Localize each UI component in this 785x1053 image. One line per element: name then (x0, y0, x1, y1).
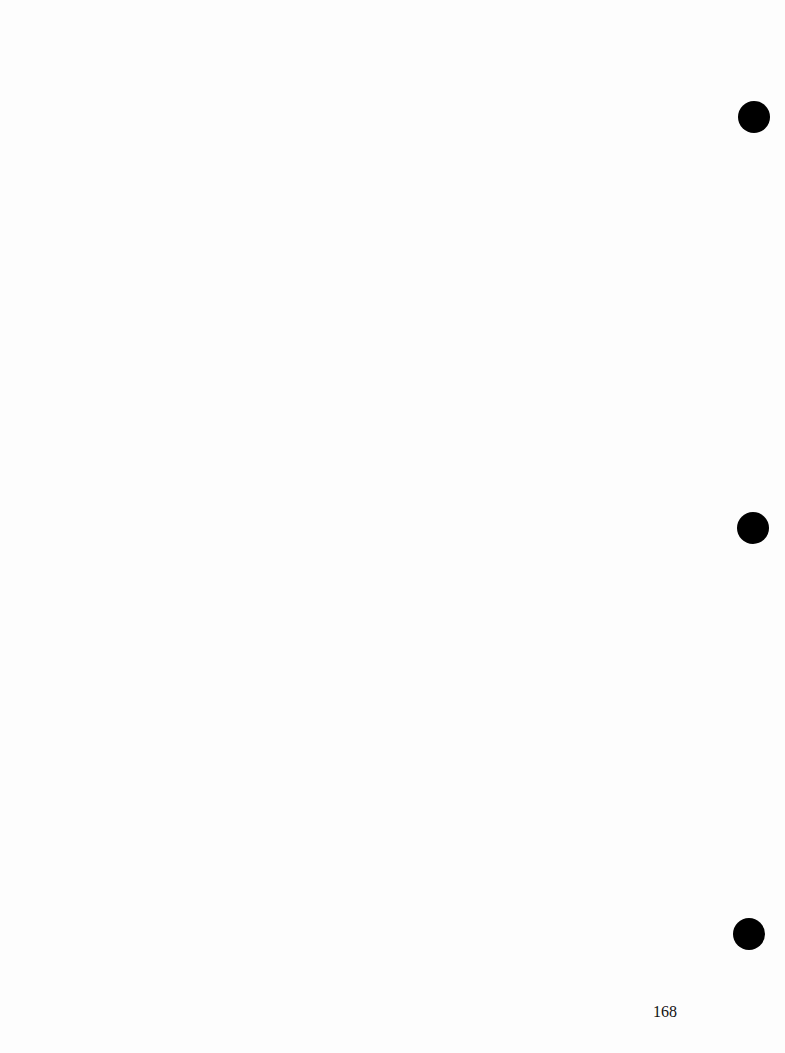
punch-hole (733, 918, 765, 950)
punch-hole (737, 512, 769, 544)
punch-hole (738, 101, 770, 133)
document-page: 168 (0, 0, 785, 1053)
page-number: 168 (653, 1003, 677, 1021)
